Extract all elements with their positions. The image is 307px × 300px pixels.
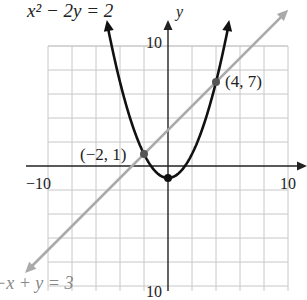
parabola-equation-label: x² − 2y = 2 bbox=[27, 1, 113, 20]
y-min-tick-label: 10 bbox=[146, 284, 162, 300]
y-max-tick-label: 10 bbox=[146, 35, 162, 51]
x-max-tick-label: 10 bbox=[280, 176, 296, 192]
x-min-tick-label: −10 bbox=[26, 176, 51, 192]
point-b-label: (4, 7) bbox=[225, 73, 262, 90]
intersection-point-a bbox=[140, 150, 148, 158]
point-a-label: (−2, 1) bbox=[80, 146, 126, 163]
y-axis bbox=[164, 20, 173, 291]
vertex-point bbox=[164, 174, 172, 182]
intersection-point-b bbox=[212, 78, 220, 86]
line-equation-label: −x + y = 3 bbox=[0, 274, 73, 292]
y-axis-label: y bbox=[176, 4, 183, 20]
x-axis bbox=[26, 162, 307, 171]
